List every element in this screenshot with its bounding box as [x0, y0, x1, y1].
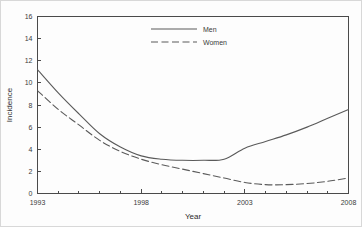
- y-axis-tick-labels: 0246810121416: [25, 13, 33, 197]
- legend-label-women: Women: [203, 39, 227, 46]
- y-tick-label: 6: [29, 124, 33, 131]
- x-tick-label: 2008: [341, 199, 357, 206]
- y-axis-title: Incidence: [5, 87, 14, 122]
- y-tick-label: 14: [25, 35, 33, 42]
- x-tick-label: 2003: [237, 199, 253, 206]
- legend-label-men: Men: [203, 26, 217, 33]
- x-tick-label: 1993: [30, 199, 46, 206]
- line-chart: 0246810121416 1993199820032008 MenWomen …: [1, 1, 362, 227]
- y-tick-label: 0: [29, 190, 33, 197]
- x-axis-ticks: [38, 189, 349, 194]
- y-tick-label: 8: [29, 102, 33, 109]
- series-line-men: [38, 70, 349, 161]
- y-tick-label: 10: [25, 79, 33, 86]
- x-axis-tick-labels: 1993199820032008: [30, 199, 357, 206]
- chart-figure: 0246810121416 1993199820032008 MenWomen …: [0, 0, 362, 227]
- y-tick-label: 12: [25, 57, 33, 64]
- y-tick-label: 4: [29, 146, 33, 153]
- x-tick-label: 1998: [133, 199, 149, 206]
- chart-legend: MenWomen: [151, 26, 227, 46]
- data-series-group: [38, 70, 349, 185]
- series-line-women: [38, 91, 349, 185]
- y-tick-label: 2: [29, 168, 33, 175]
- x-axis-title: Year: [185, 212, 202, 221]
- plot-frame: [38, 17, 349, 194]
- y-tick-label: 16: [25, 13, 33, 20]
